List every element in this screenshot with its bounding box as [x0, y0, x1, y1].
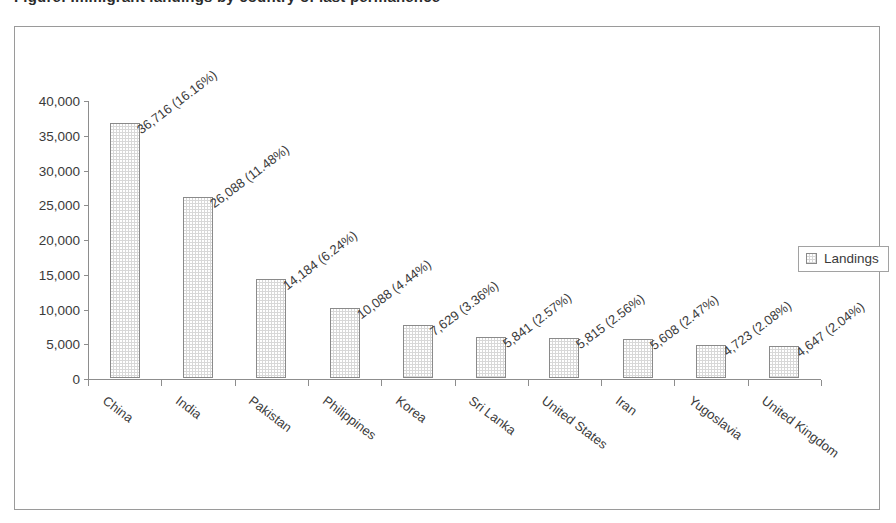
y-axis-tick-label: 15,000 [39, 267, 80, 282]
x-axis-tick [528, 380, 529, 386]
y-axis-tick-label: 40,000 [39, 94, 80, 109]
x-axis-category-label: United States [539, 393, 610, 452]
x-axis-category-label: Iran [613, 393, 640, 418]
x-axis-tick [308, 380, 309, 386]
bar[interactable] [110, 123, 140, 378]
bar[interactable] [183, 197, 213, 378]
y-axis-tick-label: 20,000 [39, 233, 80, 248]
bar-value-label: 4,647 (2.04%) [793, 299, 867, 360]
x-axis-tick [161, 380, 162, 386]
plot-area: 40,00035,00030,00025,00020,00015,00010,0… [88, 101, 821, 379]
y-axis-tick-label: 5,000 [46, 337, 80, 352]
bar[interactable] [256, 279, 286, 378]
bar[interactable] [403, 325, 433, 378]
legend-label-landings: Landings [824, 251, 879, 266]
y-axis-tick-label: 30,000 [39, 163, 80, 178]
bar[interactable] [330, 308, 360, 378]
x-axis-tick [601, 380, 602, 386]
y-axis-tick [84, 101, 89, 102]
x-axis-category-label: India [173, 393, 205, 422]
bar-value-label: 14,184 (6.24%) [280, 228, 360, 293]
bar-value-label: 10,088 (4.44%) [354, 256, 434, 321]
page-title: Figure: Immigrant landings by country of… [14, 0, 440, 5]
y-axis-tick-label: 25,000 [39, 198, 80, 213]
page-title-sliver: Figure: Immigrant landings by country of… [0, 0, 896, 14]
bar[interactable] [476, 337, 506, 378]
x-axis-category-label: United Kingdom [759, 393, 842, 461]
x-axis-category-label: Philippines [320, 393, 379, 443]
x-axis-tick [88, 380, 89, 386]
bar-value-label: 5,608 (2.47%) [647, 292, 721, 353]
y-axis-tick [84, 275, 89, 276]
y-axis-tick [84, 205, 89, 206]
x-axis-tick [748, 380, 749, 386]
x-axis-category-label: Pakistan [246, 393, 295, 435]
y-axis-tick-label: 10,000 [39, 302, 80, 317]
chart-legend: Landings [798, 246, 889, 272]
bar[interactable] [623, 339, 653, 378]
x-axis-tick [455, 380, 456, 386]
y-axis-tick-label: 35,000 [39, 128, 80, 143]
y-axis-tick-label: 0 [72, 372, 80, 387]
legend-swatch-landings [806, 253, 817, 264]
x-axis-category-label: Yugoslavia [686, 393, 745, 443]
y-axis-tick [84, 136, 89, 137]
chart-frame: 40,00035,00030,00025,00020,00015,00010,0… [14, 26, 880, 510]
x-axis-tick [235, 380, 236, 386]
x-axis-tick [821, 380, 822, 386]
x-axis-category-label: Korea [393, 393, 430, 426]
y-axis-tick [84, 240, 89, 241]
x-axis-tick [674, 380, 675, 386]
x-axis-category-label: China [100, 393, 136, 425]
bar-value-label: 36,716 (16.16%) [134, 67, 220, 137]
bar-value-label: 26,088 (11.48%) [207, 141, 292, 210]
y-axis-tick [84, 310, 89, 311]
x-axis-category-label: Sri Lanka [466, 393, 519, 438]
y-axis-tick [84, 344, 89, 345]
x-axis-tick [381, 380, 382, 386]
bar-value-label: 7,629 (3.36%) [427, 278, 501, 339]
y-axis-tick [84, 171, 89, 172]
